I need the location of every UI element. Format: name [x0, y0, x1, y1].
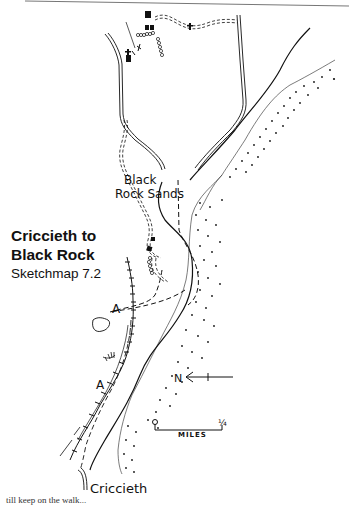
page-edge — [25, 1, 349, 6]
stream — [126, 22, 135, 48]
scale-unit-label: MILES — [178, 431, 207, 439]
route-mark-a-lower: A — [96, 378, 104, 392]
scale-max-label: ¼ — [218, 418, 227, 428]
scale-bar — [153, 420, 223, 431]
clipped-page-text: till keep on the walk... — [6, 495, 86, 505]
beach-label: Black Rock Sands — [124, 173, 184, 201]
north-label: N — [174, 372, 182, 385]
pond — [93, 318, 110, 332]
main-road — [105, 15, 246, 170]
high-water-line — [200, 60, 335, 210]
beach-label-line-2: Rock Sands — [115, 187, 184, 201]
map-title-line-2: Black Rock — [11, 245, 101, 264]
beach-label-line-1: Black — [124, 173, 156, 187]
map-title-block: Criccieth to Black Rock Sketchmap 7.2 — [11, 226, 101, 282]
town-label: Criccieth — [90, 481, 147, 496]
river — [90, 182, 193, 470]
stile-markers — [132, 44, 141, 55]
route-mark-a-upper: A — [112, 302, 120, 316]
north-arrow-icon — [186, 372, 233, 382]
coast-path-dashed — [80, 320, 131, 470]
beach-dots — [123, 69, 335, 473]
building-icon — [145, 11, 151, 18]
town-road — [78, 468, 87, 490]
church-icon — [126, 55, 131, 62]
marsh-icon — [103, 352, 115, 361]
village-features — [125, 11, 193, 62]
building-icon — [150, 25, 154, 30]
map-subtitle: Sketchmap 7.2 — [11, 265, 101, 282]
railway — [70, 257, 136, 460]
building-icon — [145, 25, 149, 30]
map-title-line-1: Criccieth to — [11, 226, 101, 245]
